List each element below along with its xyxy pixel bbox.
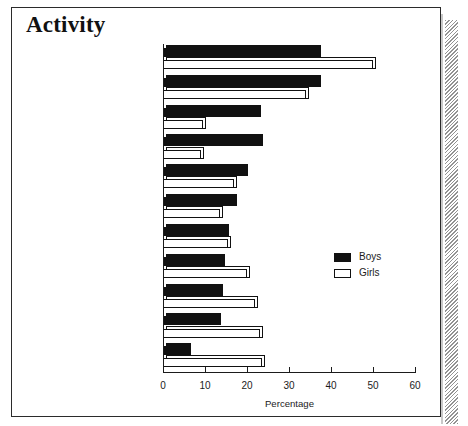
bar-front-face xyxy=(163,60,373,69)
bar-top-face xyxy=(166,355,265,358)
bar-side-face xyxy=(262,355,265,367)
bar-top-face xyxy=(166,87,309,90)
bar-top-face xyxy=(166,194,237,197)
bar-girls xyxy=(163,117,206,129)
figure-page: Activity EnglishMathematicsPhysicsOther … xyxy=(0,0,468,426)
bar-side-face xyxy=(306,87,309,99)
bar-top-face xyxy=(166,105,261,108)
bar-top-face xyxy=(166,296,258,299)
bar-side-face xyxy=(226,224,229,236)
y-axis-line xyxy=(163,44,164,373)
bar-side-face xyxy=(247,266,250,278)
bar-front-face xyxy=(163,227,226,236)
bar-top-face xyxy=(166,176,237,179)
bar-front-face xyxy=(163,299,255,308)
bar-side-face xyxy=(373,57,376,69)
bar-top-face xyxy=(166,134,263,137)
x-axis-tick-label: 0 xyxy=(160,380,166,391)
bar-front-face xyxy=(163,108,258,117)
bar-top-face xyxy=(166,284,223,287)
bar-front-face xyxy=(163,209,220,218)
x-axis-tick xyxy=(247,367,248,372)
bar-side-face xyxy=(318,45,321,57)
x-axis-tick-label: 10 xyxy=(199,380,210,391)
bar-girls xyxy=(163,87,309,99)
x-axis-tick-label: 60 xyxy=(409,380,420,391)
bar-side-face xyxy=(318,75,321,87)
bar-side-face xyxy=(218,313,221,325)
bar-girls xyxy=(163,57,376,69)
bar-top-face xyxy=(166,206,223,209)
bar-girls xyxy=(163,236,231,248)
bar-boys xyxy=(163,75,321,87)
bar-top-face xyxy=(166,164,248,167)
bar-top-face xyxy=(166,254,225,257)
x-axis-tick-label: 40 xyxy=(325,380,336,391)
x-axis-tick-label: 50 xyxy=(367,380,378,391)
bar-front-face xyxy=(163,239,228,248)
x-axis-tick xyxy=(289,367,290,372)
bar-front-face xyxy=(163,346,188,355)
bar-top-face xyxy=(166,75,321,78)
bar-front-face xyxy=(163,150,201,159)
bar-top-face xyxy=(166,117,206,120)
bar-front-face xyxy=(163,137,260,146)
bar-side-face xyxy=(255,296,258,308)
bar-boys xyxy=(163,134,263,146)
bar-girls xyxy=(163,206,223,218)
bar-front-face xyxy=(163,197,234,206)
bars-area xyxy=(163,44,415,372)
bar-side-face xyxy=(228,236,231,248)
bar-girls xyxy=(163,296,258,308)
legend-swatch-boys xyxy=(334,253,351,262)
bar-front-face xyxy=(163,179,234,188)
bar-top-face xyxy=(166,236,231,239)
bar-top-face xyxy=(166,224,229,227)
bar-side-face xyxy=(222,254,225,266)
bar-top-face xyxy=(166,45,321,48)
x-axis-tick xyxy=(331,367,332,372)
bar-side-face xyxy=(188,343,191,355)
bar-girls xyxy=(163,326,263,338)
bar-boys xyxy=(163,164,248,176)
x-axis-title: Percentage xyxy=(163,398,416,409)
bar-side-face xyxy=(245,164,248,176)
bar-boys xyxy=(163,284,223,296)
bar-top-face xyxy=(166,313,221,316)
bar-front-face xyxy=(163,120,203,129)
bar-side-face xyxy=(201,147,204,159)
bar-top-face xyxy=(166,326,263,329)
bar-boys xyxy=(163,224,229,236)
bar-side-face xyxy=(234,194,237,206)
bar-top-face xyxy=(166,266,250,269)
bar-front-face xyxy=(163,78,318,87)
bar-side-face xyxy=(203,117,206,129)
bar-girls xyxy=(163,147,204,159)
bar-boys xyxy=(163,254,225,266)
bar-top-face xyxy=(166,57,376,60)
bar-girls xyxy=(163,355,265,367)
bar-front-face xyxy=(163,316,218,325)
x-axis-tick-label: 30 xyxy=(283,380,294,391)
bar-girls xyxy=(163,176,237,188)
bar-side-face xyxy=(260,134,263,146)
bar-front-face xyxy=(163,48,318,57)
bar-front-face xyxy=(163,257,222,266)
x-axis-tick xyxy=(415,367,416,372)
category-labels: EnglishMathematicsPhysicsOther sciencesb… xyxy=(0,0,160,426)
bar-boys xyxy=(163,343,191,355)
bar-side-face xyxy=(220,206,223,218)
legend-swatch-girls xyxy=(334,269,351,278)
bar-front-face xyxy=(163,329,260,338)
x-axis-tick xyxy=(373,367,374,372)
bar-front-face xyxy=(163,269,247,278)
bar-boys xyxy=(163,194,237,206)
x-axis-line xyxy=(163,372,416,373)
x-axis-tick xyxy=(163,367,164,372)
bar-top-face xyxy=(166,147,204,150)
bar-front-face xyxy=(163,287,220,296)
x-axis-tick xyxy=(205,367,206,372)
bar-front-face xyxy=(163,167,245,176)
bar-side-face xyxy=(220,284,223,296)
x-axis-tick-label: 20 xyxy=(241,380,252,391)
